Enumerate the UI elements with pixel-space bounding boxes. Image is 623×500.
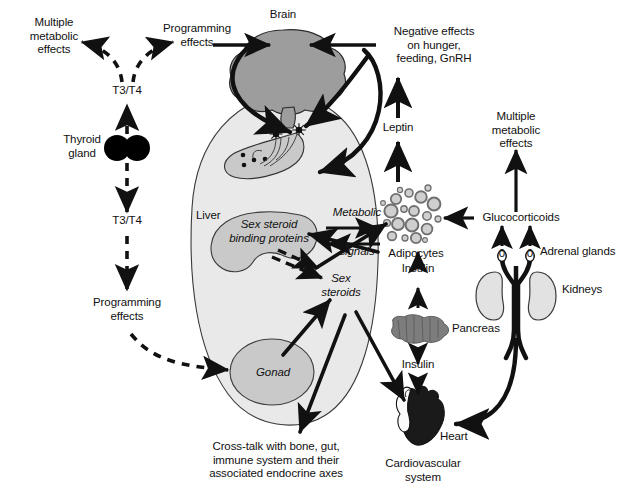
pancreas-shape [392, 315, 449, 343]
label-leptin: Leptin [372, 121, 424, 135]
label-t3t4-bottom: T3/T4 [103, 214, 151, 228]
label-insulin-lower: Insulin [394, 358, 442, 372]
label-signals: signals [330, 245, 384, 259]
thyroid-gland-shape [104, 135, 150, 161]
label-pancreas: Pancreas [452, 322, 516, 336]
label-t3t4-top: T3/T4 [103, 84, 151, 98]
label-metabolic: Metabolic [326, 206, 388, 220]
label-kidneys: Kidneys [562, 283, 618, 297]
label-programming-effects-bottom: Programming effects [82, 296, 172, 323]
glucocorticoid-axis-arrows [444, 150, 530, 246]
heart-shape [396, 386, 444, 445]
label-sex-steroids: Sex steroids [318, 272, 364, 299]
label-multiple-metabolic-effects-left: Multiple metabolic effects [8, 16, 100, 57]
label-programming-effects-top: Programming effects [152, 22, 242, 49]
label-gonad: Gonad [250, 366, 296, 380]
label-cardiovascular-system: Cardiovascular system [376, 457, 470, 484]
endocrine-diagram-figure: Multiple metabolic effects Programming e… [0, 0, 623, 500]
label-multiple-metabolic-effects-right: Multiple metabolic effects [476, 110, 556, 151]
label-glucocorticoids: Glucocorticoids [478, 211, 564, 225]
label-cross-talk: Cross-talk with bone, gut, immune system… [196, 440, 356, 481]
label-adrenal-marker-right: 0 [524, 247, 536, 261]
label-sex-steroid-binding-proteins: Sex steroid binding proteins [222, 218, 316, 245]
adipocytes-cluster-shape [381, 185, 441, 243]
label-thyroid-gland: Thyroid gland [56, 133, 108, 160]
label-adrenal-marker-left: 0 [496, 247, 508, 261]
label-adipocytes: Adipocytes [381, 247, 451, 261]
label-insulin-upper: Insulin [394, 262, 442, 276]
label-negative-effects: Negative effects on hunger, feeding, GnR… [378, 25, 490, 66]
label-brain: Brain [253, 8, 313, 22]
label-adrenal-glands: Adrenal glands [540, 245, 623, 259]
label-heart: Heart [440, 430, 484, 444]
